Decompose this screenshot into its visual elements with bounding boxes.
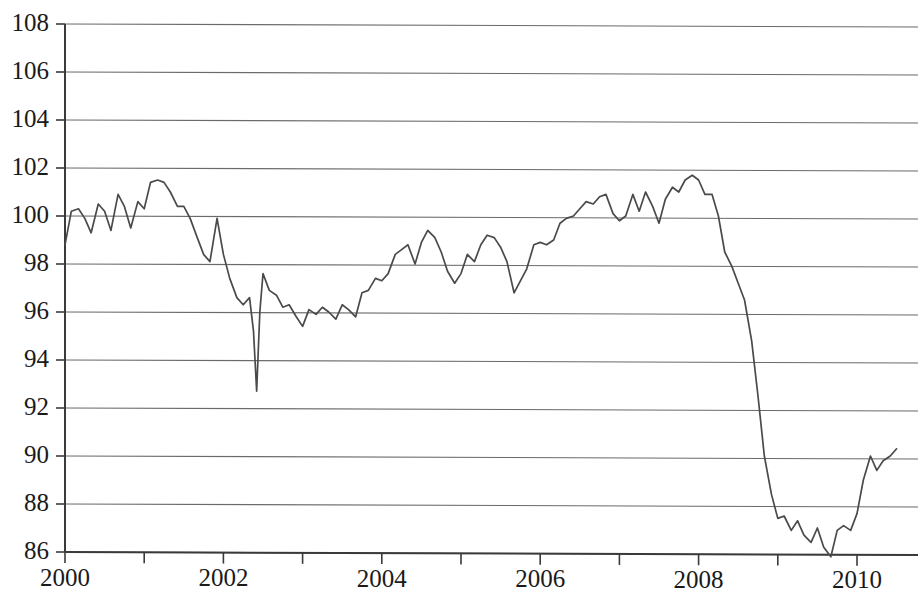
chart-container: 86889092949698100102104106108 2000200220… [0, 0, 918, 607]
y-tick-label-94: 94 [24, 345, 50, 372]
y-tick-label-96: 96 [24, 297, 49, 324]
y-tick-label-90: 90 [24, 441, 49, 468]
gridlines [65, 24, 918, 555]
data-series [65, 175, 897, 557]
x-tick-label-2010: 2010 [832, 566, 882, 593]
y-axis [56, 24, 65, 552]
gridline-90 [65, 456, 918, 459]
x-tick-label-2002: 2002 [198, 564, 248, 591]
x-tick-labels: 200020022004200620082010 [40, 564, 882, 594]
x-axis-line [65, 552, 918, 555]
gridline-96 [65, 312, 918, 315]
y-tick-label-86: 86 [24, 537, 49, 564]
y-tick-label-106: 106 [12, 57, 50, 84]
y-tick-label-108: 108 [12, 9, 50, 36]
gridline-94 [65, 360, 918, 363]
gridline-102 [65, 168, 918, 171]
y-tick-label-100: 100 [12, 201, 50, 228]
x-tick-label-2008: 2008 [674, 566, 724, 593]
x-tick-label-2000: 2000 [40, 564, 90, 591]
y-tick-labels: 86889092949698100102104106108 [12, 9, 50, 564]
gridline-88 [65, 504, 918, 507]
gridline-108 [65, 24, 918, 27]
gridline-106 [65, 72, 918, 75]
y-tick-label-98: 98 [24, 249, 49, 276]
gridline-104 [65, 120, 918, 123]
x-axis [65, 552, 918, 566]
line-chart: 86889092949698100102104106108 2000200220… [0, 0, 918, 607]
x-tick-label-2006: 2006 [515, 565, 565, 592]
x-tick-label-2004: 2004 [357, 565, 408, 592]
y-tick-label-104: 104 [12, 105, 50, 132]
gridline-92 [65, 408, 918, 411]
y-tick-label-102: 102 [12, 153, 50, 180]
gridline-98 [65, 264, 918, 267]
gridline-100 [65, 216, 918, 219]
y-tick-label-88: 88 [24, 489, 49, 516]
series-line-index [65, 175, 897, 557]
y-tick-label-92: 92 [24, 393, 49, 420]
